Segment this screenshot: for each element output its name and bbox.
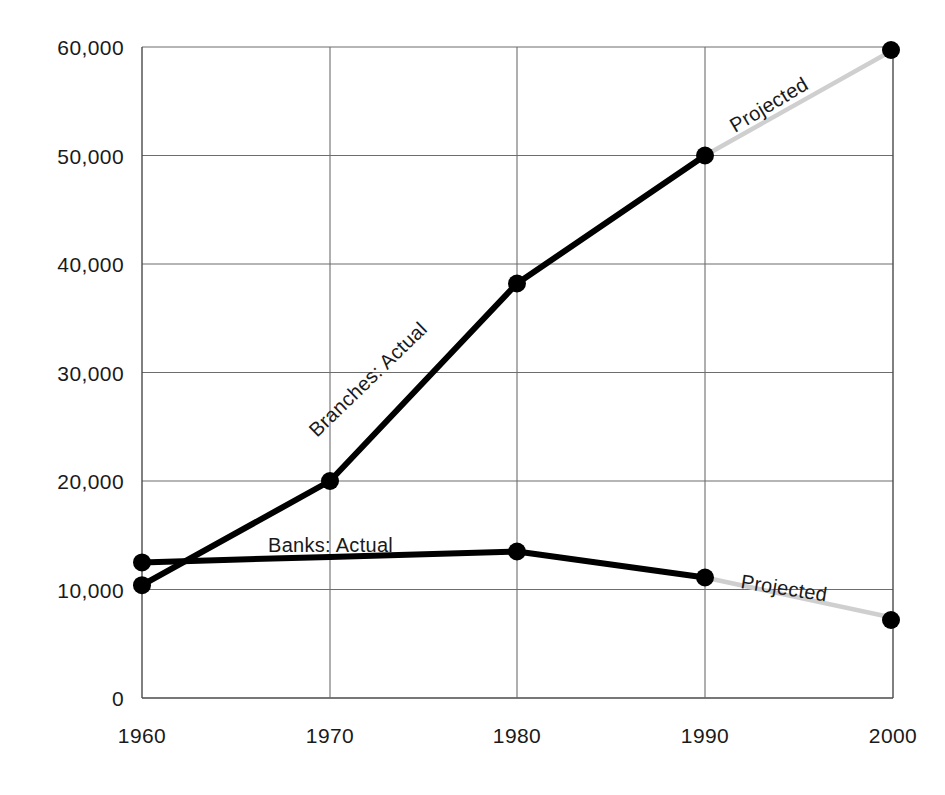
data-point-banks-1990 [696,569,714,587]
data-point-branches-1960 [133,576,151,594]
x-tick-label-1960: 1960 [118,724,166,747]
data-point-branches-1980 [508,275,526,293]
x-tick-label-1990: 1990 [681,724,729,747]
y-tick-label-60000: 60,000 [57,36,124,59]
data-point-banks-1960 [133,553,151,571]
y-tick-label-50000: 50,000 [57,145,124,168]
data-point-banks-1980 [508,543,526,561]
data-point-branches-2000 [882,41,900,59]
banks-actual-label: Banks: Actual [268,534,393,556]
chart-container: 60,000 50,000 40,000 30,000 20,000 10,00… [0,0,945,795]
data-point-branches-1970 [321,472,339,490]
line-chart: 60,000 50,000 40,000 30,000 20,000 10,00… [0,0,945,795]
y-axis-tick-labels: 60,000 50,000 40,000 30,000 20,000 10,00… [57,36,124,710]
data-point-banks-2000 [882,611,900,629]
y-tick-label-10000: 10,000 [57,579,124,602]
data-point-branches-1990 [696,147,714,165]
y-tick-label-20000: 20,000 [57,470,124,493]
y-tick-label-30000: 30,000 [57,362,124,385]
x-tick-label-2000: 2000 [869,724,917,747]
x-tick-label-1970: 1970 [306,724,354,747]
y-tick-label-40000: 40,000 [57,253,124,276]
x-axis-tick-labels: 1960 1970 1980 1990 2000 [118,724,917,747]
x-tick-label-1980: 1980 [493,724,541,747]
y-tick-label-0: 0 [112,687,124,710]
